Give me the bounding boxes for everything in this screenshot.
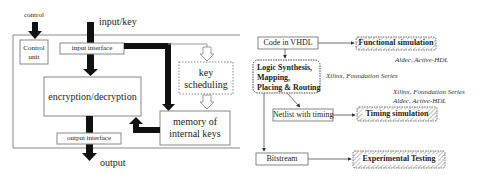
xilinx-tool-label-1: Xilinx, Foundation Series (326, 73, 398, 80)
input-interface-label: input interface (60, 45, 124, 52)
control-unit-label: Control unit (20, 45, 48, 61)
key-scheduling-label: key scheduling (179, 67, 233, 91)
input-key-label: input/key (99, 17, 137, 27)
aldec-tool-label-1: Aldec, Active-HDL (395, 57, 448, 64)
netlist-label: Netlist with timing (273, 111, 333, 119)
key-scheduling-out-arrow (200, 95, 214, 109)
logic-synthesis-label: Logic Synthesis, Mapping, Placing & Rout… (257, 63, 321, 93)
input-arrow (83, 69, 98, 76)
xilinx-tool-label-2: Xilinx, Foundation Series (393, 89, 465, 96)
output-interface-label: output interface (57, 135, 121, 142)
key-scheduling-in-arrow (200, 47, 214, 61)
experimental-testing-label: Experimental Testing (353, 155, 445, 163)
output-label: output (100, 158, 126, 168)
timing-simulation-label: Timing simulation (357, 110, 437, 118)
bitstream-label: Bitstream (256, 155, 308, 163)
code-vhdl-label: Code in VHDL (258, 39, 318, 47)
encryption-decryption-label: encryption/decryption (44, 92, 141, 102)
key-to-memory-arrow (162, 104, 175, 111)
memory-to-encryption-arrow (129, 117, 143, 124)
functional-simulation-label: Functional simulation (356, 39, 436, 47)
output-arrow (82, 153, 97, 161)
aldec-tool-label-2: Aldec, Active-HDL (393, 98, 446, 105)
memory-internal-keys-label: memory of internal keys (160, 116, 230, 140)
control-label: control (24, 12, 44, 19)
